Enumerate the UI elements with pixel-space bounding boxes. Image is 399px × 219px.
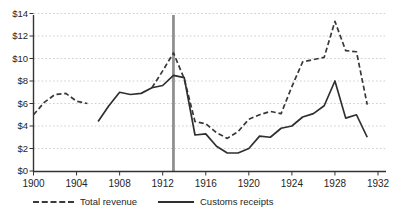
svg-text:$10: $10 [12,53,28,64]
svg-text:1908: 1908 [109,178,132,189]
solid-line-sample [158,201,194,203]
svg-text:1912: 1912 [152,178,175,189]
svg-text:1932: 1932 [367,178,390,189]
svg-text:1924: 1924 [281,178,304,189]
legend-label-customs-receipts: Customs receipts [200,194,273,210]
svg-text:1904: 1904 [65,178,88,189]
legend-item-total-revenue: Total revenue [33,194,137,210]
svg-text:$12: $12 [12,30,28,41]
svg-text:$6: $6 [17,98,28,109]
svg-text:$14: $14 [12,8,28,19]
legend-item-customs-receipts: Customs receipts [158,194,273,210]
legend: Total revenue Customs receipts [0,194,399,214]
svg-text:$8: $8 [17,75,28,86]
svg-text:$2: $2 [17,143,28,154]
svg-text:1900: 1900 [22,178,45,189]
svg-text:1916: 1916 [195,178,218,189]
svg-text:1920: 1920 [238,178,261,189]
plot-area: $0$2$4$6$8$10$12$14190019041908191219161… [0,0,399,219]
svg-text:1928: 1928 [324,178,347,189]
svg-text:$4: $4 [17,120,28,131]
dashed-line-sample [33,201,74,203]
svg-text:$0: $0 [17,165,28,176]
revenue-customs-chart: $0$2$4$6$8$10$12$14190019041908191219161… [0,0,399,219]
legend-label-total-revenue: Total revenue [80,194,137,210]
